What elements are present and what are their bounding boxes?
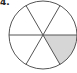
shaded-sector: [43, 35, 77, 64]
fraction-circle-diagram: [0, 0, 77, 73]
